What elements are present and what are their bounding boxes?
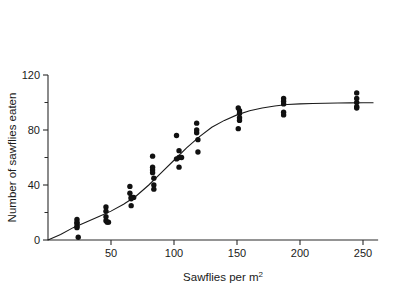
- data-point: [176, 164, 181, 169]
- data-point: [151, 175, 156, 180]
- x-tick-label-50: 50: [105, 247, 117, 259]
- y-axis-title: Number of sawflies eaten: [6, 93, 18, 223]
- y-tick-label-120: 120: [22, 69, 40, 81]
- data-point: [354, 90, 359, 95]
- data-point: [128, 196, 133, 201]
- y-tick-label-0: 0: [34, 234, 40, 246]
- data-point: [103, 208, 108, 213]
- data-point: [74, 225, 79, 230]
- data-point: [195, 137, 200, 142]
- data-point: [194, 130, 199, 135]
- y-tick-label-40: 40: [28, 179, 40, 191]
- scatter-chart: 0408012050100150200250Sawflies per m2Num…: [0, 0, 396, 293]
- x-tick-label-250: 250: [354, 247, 372, 259]
- data-point: [151, 186, 156, 191]
- data-point: [127, 184, 132, 189]
- data-point: [150, 153, 155, 158]
- data-point: [237, 118, 242, 123]
- data-point: [281, 101, 286, 106]
- data-point: [76, 235, 81, 240]
- data-point: [194, 120, 199, 125]
- data-point: [176, 148, 181, 153]
- data-point: [354, 105, 359, 110]
- data-point: [236, 126, 241, 131]
- data-point: [174, 133, 179, 138]
- x-tick-label-200: 200: [291, 247, 309, 259]
- data-point: [106, 219, 111, 224]
- fitted-curve: [48, 103, 373, 240]
- data-point: [281, 112, 286, 117]
- data-point: [150, 170, 155, 175]
- x-tick-label-100: 100: [165, 247, 183, 259]
- data-point: [179, 155, 184, 160]
- data-point: [128, 203, 133, 208]
- x-axis-title: Sawflies per m2: [183, 270, 263, 283]
- data-point: [195, 149, 200, 154]
- data-point: [174, 156, 179, 161]
- y-tick-label-80: 80: [28, 124, 40, 136]
- x-tick-label-150: 150: [228, 247, 246, 259]
